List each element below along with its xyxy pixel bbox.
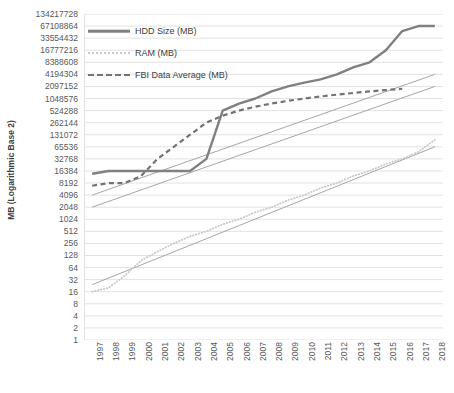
y-tick-label: 65536 xyxy=(54,143,78,152)
y-tick-label: 16384 xyxy=(54,167,78,176)
y-tick-label: 8388608 xyxy=(45,58,78,67)
x-tick-label: 2017 xyxy=(422,342,431,361)
y-tick-label: 256 xyxy=(64,239,78,248)
y-tick-label: 32768 xyxy=(54,155,78,164)
y-tick-label: 1024 xyxy=(59,215,78,224)
x-tick-label: 2014 xyxy=(373,342,382,361)
x-tick-label: 2009 xyxy=(291,342,300,361)
x-tick-label: 2013 xyxy=(357,342,366,361)
legend-item-fbi: FBI Data Average (MB) xyxy=(88,64,228,86)
x-tick-label: 2005 xyxy=(226,342,235,361)
legend-key-dotted-icon xyxy=(88,48,130,58)
x-tick-label: 2008 xyxy=(275,342,284,361)
x-axis-tick-labels: 1997199819992000200120022003200420052006… xyxy=(84,342,443,392)
y-tick-label: 8192 xyxy=(59,179,78,188)
x-tick-label: 2002 xyxy=(177,342,186,361)
x-tick-label: 2018 xyxy=(438,342,447,361)
x-tick-label: 2000 xyxy=(145,342,154,361)
y-tick-label: 33554432 xyxy=(40,34,78,43)
legend-label-fbi: FBI Data Average (MB) xyxy=(135,70,228,80)
y-tick-label: 4096 xyxy=(59,191,78,200)
y-tick-label: 32 xyxy=(69,275,78,284)
legend-key-solid-icon xyxy=(88,26,130,36)
y-tick-label: 262144 xyxy=(50,118,78,127)
y-axis-title-label: MB (Logarithmic Base 2) xyxy=(6,120,16,220)
legend-label-hdd: HDD Size (MB) xyxy=(135,26,197,36)
x-tick-label: 2003 xyxy=(194,342,203,361)
y-tick-label: 8 xyxy=(73,300,78,309)
x-tick-label: 1997 xyxy=(96,342,105,361)
y-tick-label: 16 xyxy=(69,287,78,296)
trendline xyxy=(92,147,435,285)
x-tick-label: 1999 xyxy=(128,342,137,361)
x-tick-label: 1998 xyxy=(112,342,121,361)
y-tick-label: 64 xyxy=(69,263,78,272)
x-tick-label: 2016 xyxy=(406,342,415,361)
chart-root: MB (Logarithmic Base 2) 1342177286710886… xyxy=(0,0,454,393)
y-tick-label: 2 xyxy=(73,324,78,333)
y-tick-label: 128 xyxy=(64,251,78,260)
legend-label-ram: RAM (MB) xyxy=(135,48,177,58)
plot-area: HDD Size (MB) RAM (MB) FBI Data Average … xyxy=(84,14,443,340)
x-tick-label: 2001 xyxy=(161,342,170,361)
y-tick-label: 16777216 xyxy=(40,46,78,55)
y-tick-label: 4 xyxy=(73,312,78,321)
y-tick-label: 524288 xyxy=(50,106,78,115)
y-tick-label: 2048 xyxy=(59,203,78,212)
legend-key-dashed-icon xyxy=(88,70,130,80)
y-axis-tick-labels: 1342177286710886433554432167772168388608… xyxy=(16,14,80,340)
x-tick-label: 2010 xyxy=(308,342,317,361)
x-tick-label: 2011 xyxy=(324,342,333,360)
x-tick-label: 2012 xyxy=(340,342,349,361)
x-tick-label: 2006 xyxy=(243,342,252,361)
x-tick-label: 2007 xyxy=(259,342,268,361)
legend-item-ram: RAM (MB) xyxy=(88,42,228,64)
y-tick-label: 131072 xyxy=(50,130,78,139)
chart-legend: HDD Size (MB) RAM (MB) FBI Data Average … xyxy=(84,18,232,88)
y-tick-label: 134217728 xyxy=(35,10,78,19)
y-tick-label: 2097152 xyxy=(45,82,78,91)
y-tick-label: 67108864 xyxy=(40,22,78,31)
y-tick-label: 1 xyxy=(73,336,78,345)
y-tick-label: 512 xyxy=(64,227,78,236)
y-tick-label: 1048576 xyxy=(45,94,78,103)
x-tick-label: 2015 xyxy=(389,342,398,361)
x-tick-label: 2004 xyxy=(210,342,219,361)
legend-item-hdd: HDD Size (MB) xyxy=(88,20,228,42)
y-tick-label: 4194304 xyxy=(45,70,78,79)
